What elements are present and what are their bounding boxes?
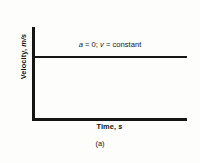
x-axis-label: Time, s: [32, 122, 187, 131]
annotation-acceleration-expression: = 0;: [83, 40, 100, 49]
figure-caption: (a): [0, 139, 200, 148]
y-axis-label-unit: m/s: [19, 34, 28, 47]
velocity-time-figure: a = 0; v = constant Velocity, m/s Time, …: [0, 0, 200, 163]
constant-velocity-line: [33, 56, 187, 58]
x-axis-label-unit: s: [118, 122, 122, 131]
annotation-constant-velocity: a = 0; v = constant: [33, 40, 187, 49]
x-axis-line: [32, 118, 187, 121]
x-axis-label-name: Time,: [96, 122, 116, 131]
y-axis-label: Velocity, m/s: [19, 19, 28, 95]
annotation-velocity-expression: = constant: [104, 40, 141, 49]
y-axis-label-name: Velocity,: [19, 49, 28, 79]
